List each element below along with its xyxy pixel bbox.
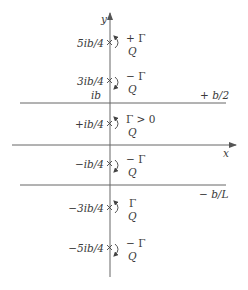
y-axis-label: y (101, 14, 107, 25)
circulation-label: − Γ (126, 154, 145, 165)
rotation-arrows (115, 37, 118, 255)
source-label: Q (128, 167, 137, 178)
vortex-position-label: −ib/4 (75, 159, 104, 170)
upper-wall-label: + b/2 (200, 90, 229, 101)
ccw-rotation-icon (115, 118, 118, 129)
ccw-rotation-icon (115, 202, 118, 213)
source-label: Q (128, 127, 137, 138)
diagram-canvas (0, 0, 248, 290)
ccw-rotation-icon (115, 37, 118, 48)
cw-rotation-icon (115, 244, 118, 255)
source-label: Q (128, 46, 137, 57)
cw-rotation-icon (115, 77, 118, 88)
circulation-label: Γ > 0 (126, 114, 155, 125)
source-label: Q (128, 211, 137, 222)
ib-label: ib (91, 90, 101, 101)
vortex-position-label: +ib/4 (75, 119, 104, 130)
vortex-position-label: 5ib/4 (77, 38, 104, 49)
vortex-position-label: −5ib/4 (68, 243, 104, 254)
vortex-position-label: −3ib/4 (68, 203, 104, 214)
source-label: Q (128, 84, 137, 95)
source-label: Q (128, 251, 137, 262)
circulation-label: + Γ (126, 33, 145, 44)
circulation-label: − Γ (126, 238, 145, 249)
x-axis-label: x (223, 148, 229, 159)
cw-rotation-icon (115, 160, 118, 171)
circulation-label: Γ (129, 198, 136, 209)
circulation-label: − Γ (126, 71, 145, 82)
vortex-position-label: 3ib/4 (77, 76, 104, 87)
lower-wall-label: − b/L (199, 189, 228, 200)
image-vortex-diagram: y x + b/2 − b/L ib 5ib/4 3ib/4 +ib/4 −ib… (0, 0, 248, 290)
